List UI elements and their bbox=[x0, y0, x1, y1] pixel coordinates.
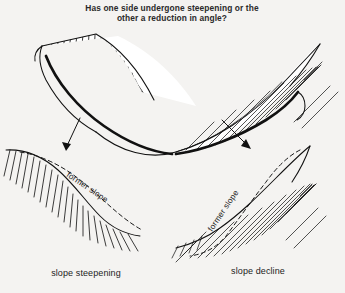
title-line-2: other a reduction in angle? bbox=[117, 13, 227, 23]
title-line-1: Has one side undergone steepening or the bbox=[85, 3, 259, 13]
caption-slope-decline: slope decline bbox=[231, 266, 285, 276]
valley-asymmetry-figure: Has one side undergone steepening or the… bbox=[0, 0, 345, 293]
caption-slope-steepening: slope steepening bbox=[51, 268, 121, 278]
